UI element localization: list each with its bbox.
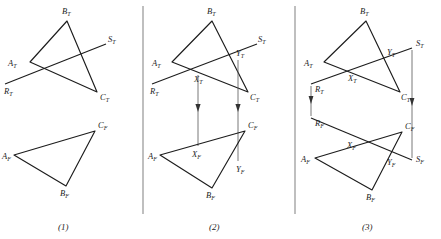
label-a-front: AF bbox=[147, 151, 157, 162]
caption-panel-1: (1) bbox=[58, 222, 69, 232]
figure-canvas: AT BT CT RT ST AF BF CF (1) bbox=[0, 0, 441, 239]
label-b-front: BF bbox=[206, 190, 215, 201]
label-s-top: ST bbox=[416, 38, 424, 49]
label-r-top: RT bbox=[3, 86, 13, 97]
triangle-abc-front bbox=[160, 131, 245, 188]
panel-3-top-view bbox=[311, 21, 412, 92]
label-s-front: SF bbox=[416, 154, 424, 165]
label-s-top: ST bbox=[108, 34, 116, 45]
projector-y-arrowhead bbox=[235, 104, 240, 112]
label-y-front: YF bbox=[387, 157, 396, 168]
panel-2: AT BT CT RT ST XT YT AF BF CF XF YF (2) bbox=[147, 6, 266, 232]
panel-3: AT BT CT RT ST XT YT RF SF AF BF CF XF Y… bbox=[300, 6, 424, 232]
label-c-top: CT bbox=[250, 92, 260, 103]
panel-3-front-view bbox=[311, 118, 412, 190]
panel-3-labels: AT BT CT RT ST XT YT RF SF AF BF CF XF Y… bbox=[300, 6, 424, 203]
label-b-top: BT bbox=[207, 6, 216, 17]
caption-panel-3: (3) bbox=[362, 222, 373, 232]
panel-2-front-view bbox=[160, 131, 245, 188]
label-c-top: CT bbox=[100, 92, 110, 103]
label-x-top: XT bbox=[193, 74, 203, 85]
label-c-top: CT bbox=[401, 92, 411, 103]
line-rs-top bbox=[311, 48, 412, 84]
panel-1: AT BT CT RT ST AF BF CF (1) bbox=[1, 6, 116, 232]
label-y-top: YT bbox=[387, 47, 396, 58]
label-r-front: RF bbox=[314, 118, 324, 129]
panel-2-labels: AT BT CT RT ST XT YT AF BF CF XF YF bbox=[147, 6, 266, 201]
label-c-front: CF bbox=[405, 121, 415, 132]
triangle-abc-front bbox=[14, 131, 95, 186]
label-c-front: CF bbox=[248, 120, 258, 131]
panel-1-labels: AT BT CT RT ST AF BF CF bbox=[1, 6, 116, 199]
panel-dividers bbox=[143, 6, 295, 214]
projector-r-arrowhead bbox=[309, 96, 314, 104]
label-b-front: BF bbox=[366, 192, 375, 203]
projector-x-arrowhead bbox=[195, 104, 200, 112]
label-b-top: BT bbox=[62, 6, 71, 17]
label-a-top: AT bbox=[7, 58, 17, 69]
label-a-front: AF bbox=[300, 154, 310, 165]
label-c-front: CF bbox=[98, 120, 108, 131]
label-b-front: BF bbox=[60, 188, 69, 199]
label-a-top: AT bbox=[151, 58, 161, 69]
label-y-front: YF bbox=[236, 164, 245, 175]
label-x-front: XF bbox=[191, 149, 201, 160]
triangle-abc-top bbox=[30, 21, 97, 92]
label-s-top: ST bbox=[258, 34, 266, 45]
label-b-top: BT bbox=[360, 6, 369, 17]
line-rs-front bbox=[311, 118, 412, 160]
label-r-top: RT bbox=[314, 84, 324, 95]
panel-2-projectors bbox=[195, 60, 240, 161]
panel-1-top-view bbox=[5, 21, 106, 92]
label-a-front: AF bbox=[1, 151, 11, 162]
panel-1-front-view bbox=[14, 131, 95, 186]
descriptive-geometry-figure: AT BT CT RT ST AF BF CF (1) bbox=[0, 0, 441, 239]
caption-panel-2: (2) bbox=[209, 222, 220, 232]
projector-s-arrowhead bbox=[410, 98, 415, 106]
label-r-top: RT bbox=[149, 86, 159, 97]
label-x-front: XF bbox=[346, 140, 356, 151]
label-a-top: AT bbox=[303, 58, 313, 69]
